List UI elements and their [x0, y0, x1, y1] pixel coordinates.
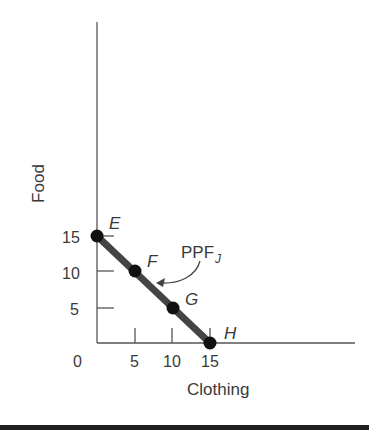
y-tick-label-5: 5: [70, 302, 79, 318]
origin-label: 0: [73, 354, 82, 370]
x-tick-label-5: 5: [130, 354, 139, 370]
y-tick-label-10: 10: [62, 266, 80, 282]
point-label-e: E: [109, 215, 120, 232]
x-tick-label-10: 10: [163, 354, 181, 370]
x-tick-label-15: 15: [201, 354, 219, 370]
ppf-label-subscript: J: [215, 252, 221, 266]
ppf-label: PPFJ: [181, 244, 221, 261]
point-h: [204, 337, 217, 350]
ppf-annotation-arrow: [160, 261, 200, 283]
point-label-g: G: [185, 291, 198, 308]
x-axis-title: Clothing: [187, 381, 249, 398]
point-label-f: F: [147, 253, 157, 270]
point-g: [167, 302, 180, 315]
arrowhead-icon: [156, 278, 165, 287]
chart-canvas: [0, 0, 369, 430]
point-f: [129, 265, 142, 278]
y-tick-label-15: 15: [62, 230, 80, 246]
point-label-h: H: [224, 325, 236, 342]
y-axis-title: Food: [30, 164, 47, 203]
point-e: [91, 230, 104, 243]
ppf-label-main: PPF: [181, 243, 214, 262]
bottom-border: [0, 425, 369, 430]
